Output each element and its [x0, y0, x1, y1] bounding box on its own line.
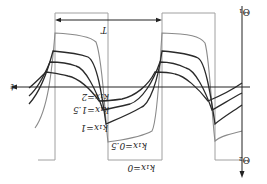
label-k1x-1: k₁x=1 [81, 123, 108, 133]
label-k1x-2: k₁x=2 [81, 92, 109, 102]
temperature-wave-diagram: Θ₁ Θ₂ t T k₁x=0 k₁x=0.5 k₁x=1 k₁x=1.5 k₁… [0, 0, 267, 184]
label-k1x-0: k₁x=0 [127, 163, 155, 173]
label-k1x-0.5: k₁x=0.5 [111, 141, 147, 151]
period-arrow-right-icon [156, 18, 162, 22]
time-label: t [10, 82, 14, 92]
period-label: T [100, 25, 107, 35]
period-arrow-left-icon [55, 18, 61, 22]
theta2-label: Θ₂ [239, 155, 250, 165]
theta1-label: Θ₁ [239, 7, 250, 17]
theta-axis-arrow-icon [240, 171, 245, 178]
label-k1x-1.5: k₁x=1.5 [73, 105, 109, 115]
